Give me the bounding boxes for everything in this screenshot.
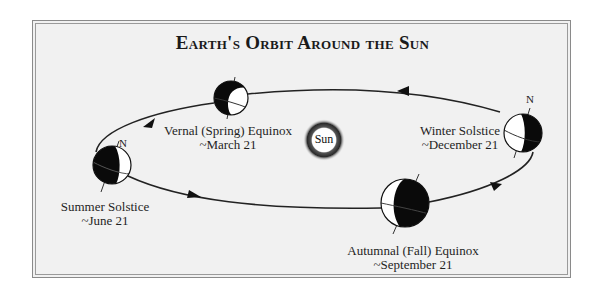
- position-name: Summer Solstice: [50, 200, 160, 214]
- position-date: ~December 21: [420, 138, 500, 152]
- north-label-winter: N: [526, 93, 534, 105]
- arrow-icon: [490, 182, 502, 191]
- label-winter-solstice: Winter Solstice ~December 21: [420, 124, 500, 152]
- earth-winter: [504, 108, 542, 158]
- position-date: ~September 21: [340, 258, 486, 272]
- position-name: Autumnal (Fall) Equinox: [340, 244, 486, 258]
- arrow-icon: [187, 190, 201, 198]
- label-vernal-equinox: Vernal (Spring) Equinox ~March 21: [150, 124, 306, 152]
- earth-autumnal: [381, 174, 429, 234]
- position-name: Vernal (Spring) Equinox: [150, 124, 306, 138]
- north-label-summer: N: [119, 137, 127, 149]
- label-autumnal-equinox: Autumnal (Fall) Equinox ~September 21: [340, 244, 486, 272]
- label-summer-solstice: Summer Solstice ~June 21: [50, 200, 160, 228]
- position-date: ~June 21: [50, 214, 160, 228]
- earth-vernal: [214, 77, 248, 119]
- position-name: Winter Solstice: [420, 124, 500, 138]
- position-date: ~March 21: [150, 138, 306, 152]
- arrow-icon: [397, 86, 409, 96]
- sun-label: Sun: [309, 132, 339, 147]
